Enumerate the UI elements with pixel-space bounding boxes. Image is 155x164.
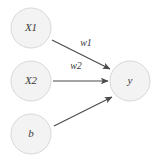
edge-b-to-y [54, 97, 112, 126]
node-y-label: y [127, 74, 133, 86]
edges-group [52, 40, 112, 126]
edge-label-w2: w2 [70, 60, 82, 71]
neural-network-diagram: X1 X2 b y w1 w2 [0, 0, 155, 164]
node-x1-label: X1 [24, 21, 37, 33]
edge-label-w1: w1 [80, 37, 92, 48]
node-x2-label: X2 [24, 74, 38, 86]
diagram-canvas: X1 X2 b y w1 w2 [0, 0, 155, 164]
node-b-label: b [28, 127, 34, 139]
